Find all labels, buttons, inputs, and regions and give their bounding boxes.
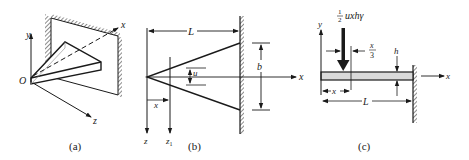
position-label-c: x — [331, 86, 336, 96]
z1-axis-label-b: z1 — [165, 136, 173, 147]
cantilever-triangular-plate-figure: y x z O (a) x L b u x — [0, 0, 469, 160]
position-label-b: x — [153, 100, 158, 110]
panel-a-isometric-view: y x z O (a) — [19, 14, 126, 153]
origin-label: O — [19, 75, 26, 86]
x-axis-label-b: x — [298, 71, 304, 82]
caption-a: (a) — [69, 140, 82, 153]
width-label-b: b — [257, 61, 262, 72]
svg-text:1: 1 — [338, 8, 342, 16]
z-axis-a — [33, 83, 91, 117]
svg-text:2: 2 — [338, 16, 342, 24]
caption-c: (c) — [358, 140, 371, 153]
panel-c-beam-model: y 1 2 uxhγ x 3 h x x — [317, 8, 450, 153]
y-axis-label-c: y — [317, 19, 322, 29]
wall-b — [240, 16, 244, 134]
y-axis-label-a: y — [25, 29, 31, 40]
load-expression: uxhγ — [345, 10, 364, 21]
z-axis-label-b: z — [143, 136, 148, 146]
point-load-arrow — [337, 28, 350, 71]
x-axis-label-c: x — [445, 71, 450, 81]
length-label-b: L — [187, 25, 194, 37]
load-label: 1 2 uxhγ — [337, 8, 364, 24]
triangular-plate-a — [31, 42, 101, 84]
panel-b-top-view: x L b u x z z1 (b) — [143, 16, 304, 153]
offset-label: x 3 — [369, 41, 376, 60]
z-axis-label-a: z — [92, 115, 97, 126]
beam — [321, 72, 413, 80]
length-label-c: L — [362, 96, 369, 107]
local-width-label-b: u — [193, 68, 198, 78]
svg-text:x: x — [369, 41, 374, 50]
caption-b: (b) — [188, 140, 201, 153]
x-axis-label-a: x — [120, 19, 126, 30]
svg-text:3: 3 — [370, 51, 374, 60]
thickness-label: h — [394, 46, 399, 56]
